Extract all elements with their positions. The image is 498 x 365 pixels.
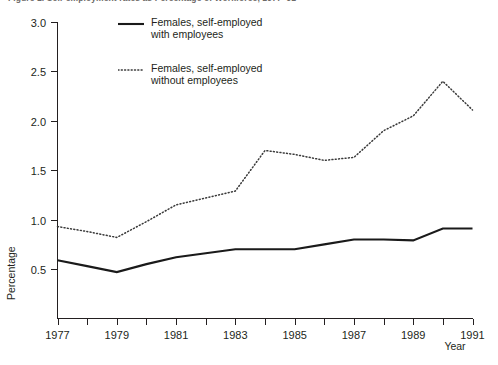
legend-swatch-dotted (118, 62, 144, 75)
legend-label-without-employees: Females, self-employed without employees (151, 62, 262, 87)
y-tick-label: 0.5 (31, 264, 46, 276)
y-tick-label: 2.5 (31, 66, 46, 78)
x-axis-title: Year (444, 340, 466, 352)
y-axis-title: Percentage (5, 246, 17, 300)
y-tick-label: 3.0 (31, 17, 46, 29)
x-tick-label: 1977 (45, 329, 69, 341)
y-axis-tick-labels: 0.51.01.52.02.53.0 (31, 17, 46, 276)
x-tick-label: 1985 (282, 329, 306, 341)
series-line-without-employees (58, 81, 473, 237)
x-tick-label: 1987 (342, 329, 366, 341)
legend-item-without-employees: Females, self-employed without employees (118, 62, 262, 87)
x-tick-label: 1981 (164, 329, 188, 341)
y-tick-label: 1.5 (31, 165, 46, 177)
figure-container: Figure 1. Self-employment rates as Perce… (0, 0, 498, 365)
y-tick-label: 2.0 (31, 116, 46, 128)
x-tick-label: 1979 (105, 329, 129, 341)
legend-swatch-solid (118, 16, 144, 29)
chart-plot: 0.51.01.52.02.53.0 197719791981198319851… (0, 0, 498, 365)
series-line-with-employees (58, 229, 473, 272)
x-tick-label: 1989 (401, 329, 425, 341)
x-tick-label: 1983 (223, 329, 247, 341)
x-axis-ticks (59, 319, 474, 326)
legend-item-with-employees: Females, self-employed with employees (118, 16, 262, 41)
y-axis-ticks (51, 23, 58, 270)
legend-label-with-employees: Females, self-employed with employees (151, 16, 262, 41)
y-tick-label: 1.0 (31, 215, 46, 227)
x-axis-tick-labels: 19771979198119831985198719891991 (45, 329, 484, 341)
